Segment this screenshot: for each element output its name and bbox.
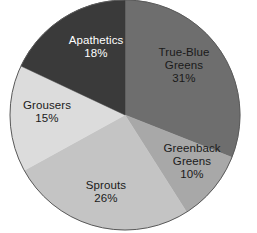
slice-label-true-blue-greens: True-Blue Greens 31% [148, 46, 220, 85]
slice-label-value: 10% [150, 168, 234, 181]
slice-label-name-line2: Greens [150, 155, 234, 168]
slice-label-name: Sprouts [68, 179, 144, 192]
slice-label-value: 26% [68, 192, 144, 205]
slice-label-name: Greenback [150, 142, 234, 155]
slice-label-greenback-greens: Greenback Greens 10% [150, 142, 234, 181]
slice-label-value: 31% [148, 72, 220, 85]
slice-label-name: Grousers [8, 99, 86, 112]
slice-label-value: 15% [8, 112, 86, 125]
slice-label-name-line2: Greens [148, 59, 220, 72]
slice-label-sprouts: Sprouts 26% [68, 179, 144, 205]
pie-chart-figure: True-Blue Greens 31% Greenback Greens 10… [0, 0, 257, 233]
slice-label-grousers: Grousers 15% [8, 99, 86, 125]
slice-label-name: Apathetics [52, 34, 140, 47]
slice-label-apathetics: Apathetics 18% [52, 34, 140, 60]
slice-label-name: True-Blue [148, 46, 220, 59]
slice-label-value: 18% [52, 47, 140, 60]
